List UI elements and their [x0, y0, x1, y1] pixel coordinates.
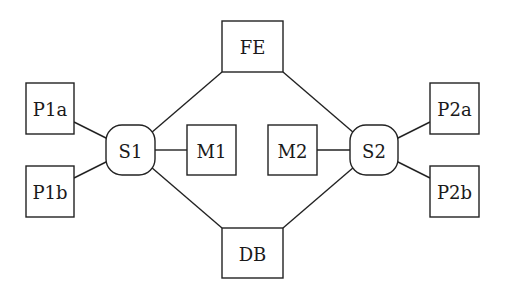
node-p1a: P1a [26, 83, 74, 134]
node-fe: FE [222, 21, 283, 72]
node-fe-label: FE [240, 37, 266, 58]
node-db-label: DB [239, 244, 267, 265]
node-p2a: P2a [430, 83, 479, 134]
node-db: DB [222, 228, 283, 278]
edge-s1-db [151, 167, 222, 228]
node-s2-label: S2 [362, 141, 386, 162]
edge-p1a-s1 [74, 122, 108, 139]
edge-s2-p2b [396, 161, 430, 178]
nodes-layer: FEDBP1aP1bS1M1M2S2P2aP2b [26, 21, 479, 278]
node-s1: S1 [106, 125, 155, 175]
node-m2: M2 [268, 125, 317, 175]
node-p1b: P1b [26, 166, 74, 217]
node-p2b: P2b [430, 166, 479, 217]
node-m1-label: M1 [197, 141, 227, 162]
node-p1b-label: P1b [32, 182, 67, 203]
edge-fe-s2 [283, 72, 354, 133]
edge-p1b-s1 [74, 161, 108, 178]
edge-s1-fe [151, 72, 222, 133]
node-m2-label: M2 [278, 141, 308, 162]
node-s2: S2 [350, 125, 398, 175]
node-p2a-label: P2a [437, 99, 472, 120]
edge-s2-p2a [396, 122, 430, 139]
node-s1-label: S1 [119, 141, 143, 162]
node-p2b-label: P2b [437, 182, 472, 203]
node-p1a-label: P1a [33, 99, 68, 120]
node-m1: M1 [187, 125, 236, 175]
edge-db-s2 [283, 167, 354, 228]
network-diagram: FEDBP1aP1bS1M1M2S2P2aP2b [0, 0, 506, 294]
